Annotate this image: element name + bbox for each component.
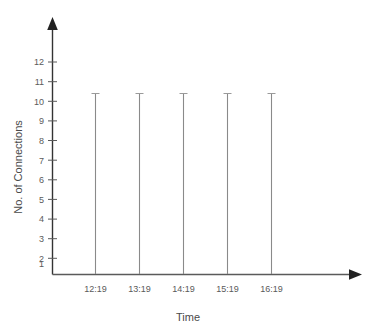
chart-container: 12 11 10 9 8 7 6 5 4 3 2 1 — [0, 0, 377, 333]
x-tick-label-1: 13:19 — [128, 284, 151, 294]
y-tick-label-4: 4 — [39, 214, 44, 224]
y-tick-label-6: 6 — [39, 175, 44, 185]
y-tick-label-3: 3 — [39, 234, 44, 244]
x-tick-label-0: 12:19 — [84, 284, 107, 294]
x-tick-label-2: 14:19 — [172, 284, 195, 294]
x-tick-label-4: 16:19 — [260, 284, 283, 294]
x-axis-title: Time — [176, 311, 200, 323]
connections-over-time-bar-chart: 12 11 10 9 8 7 6 5 4 3 2 1 — [0, 0, 377, 333]
y-tick-label-7: 7 — [39, 156, 44, 166]
y-tick-label-1: 1 — [39, 259, 44, 269]
y-axis-title: No. of Connections — [12, 120, 24, 214]
y-tick-label-12: 12 — [34, 57, 44, 67]
y-tick-label-11: 11 — [35, 77, 44, 87]
y-tick-label-8: 8 — [39, 136, 44, 146]
x-tick-label-3: 15:19 — [216, 284, 239, 294]
y-tick-label-9: 9 — [39, 116, 44, 126]
y-tick-label-10: 10 — [34, 97, 44, 107]
y-tick-label-5: 5 — [39, 195, 44, 205]
